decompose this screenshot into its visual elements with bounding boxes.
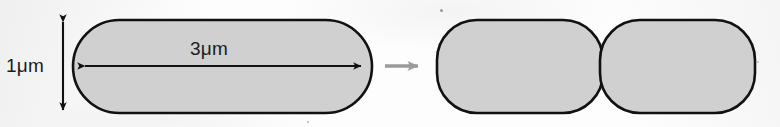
daughter-cell-left (437, 20, 603, 113)
daughter-cell-right (600, 20, 755, 113)
height-dimension-label: 1μm (6, 56, 44, 75)
diagram-canvas (0, 0, 780, 127)
daughter-cells-group (437, 20, 755, 113)
width-dimension-label: 3μm (190, 39, 228, 58)
cell-division-figure: 1μm 3μm (0, 0, 780, 127)
